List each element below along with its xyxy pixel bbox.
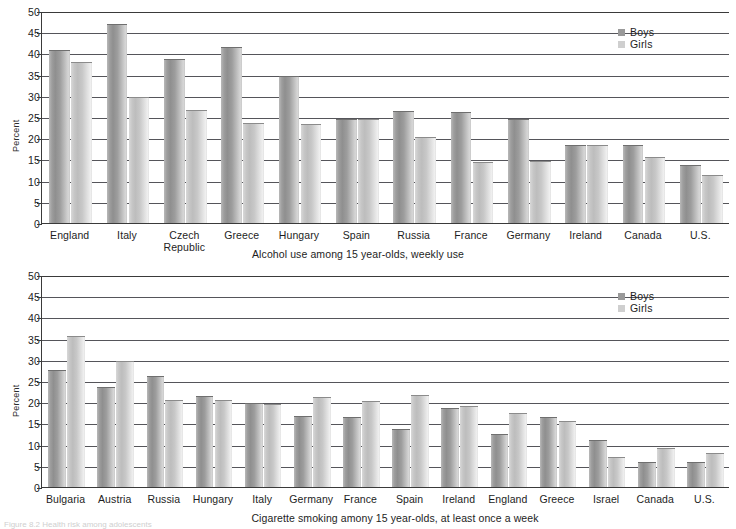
bar-face (411, 395, 429, 487)
bar-girls-ireland (460, 406, 478, 487)
bar-boys-italy (107, 24, 128, 223)
y-tick-label: 35 (0, 70, 40, 81)
bar-boys-england (49, 50, 70, 223)
y-tick-mark (37, 54, 42, 55)
y-tick-mark (37, 488, 42, 489)
gridline (42, 76, 729, 77)
bar-boys-spain (392, 429, 410, 488)
y-tick-mark (37, 118, 42, 119)
bar-face (107, 24, 128, 223)
legend-swatch-girls-icon (618, 305, 625, 312)
y-tick-mark (37, 467, 42, 468)
bar-face (362, 401, 380, 487)
bar-face (589, 440, 607, 487)
y-tick-label: 35 (0, 334, 40, 345)
x-axis-label: U.S. (668, 494, 736, 506)
bar-boys-greece (221, 47, 242, 223)
bar-face (245, 403, 263, 487)
y-tick-mark (37, 12, 42, 13)
bar-boys-canada (623, 145, 644, 223)
gridline (42, 276, 729, 277)
bar-face (71, 62, 92, 223)
y-tick-label: 30 (0, 92, 40, 103)
legend-item-girls: Girls (618, 38, 654, 50)
bar-face (657, 448, 675, 487)
bar-girls-germany (313, 397, 331, 487)
bar-boys-czech-republic (164, 59, 185, 224)
bar-face (343, 417, 361, 487)
legend-swatch-boys-icon (618, 293, 625, 300)
bar-face (294, 416, 312, 487)
y-tick-mark (37, 182, 42, 183)
bar-boys-france (343, 417, 361, 487)
y-tick-mark (37, 276, 42, 277)
gridline (42, 361, 729, 362)
bar-girls-u.s. (706, 453, 724, 487)
bar-face (264, 404, 282, 487)
bar-girls-italy (129, 97, 150, 223)
bar-boys-spain (336, 119, 357, 223)
bar-face (540, 417, 558, 487)
y-tick-label: 5 (0, 198, 40, 209)
bar-boys-germany (508, 119, 529, 223)
bar-face (67, 336, 85, 487)
bar-face (116, 361, 134, 487)
bar-face (129, 97, 150, 223)
bar-face (196, 396, 214, 487)
y-tick-mark (37, 160, 42, 161)
y-tick-label: 0 (0, 483, 40, 494)
bar-boys-austria (97, 387, 115, 487)
y-tick-label: 0 (0, 219, 40, 230)
figure-footer-note: Figure 8.2 Health risk among adolescents (4, 520, 152, 529)
bar-girls-spain (358, 119, 379, 223)
bar-girls-italy (264, 404, 282, 487)
bar-face (680, 165, 701, 223)
bar-face (221, 47, 242, 223)
bar-girls-hungary (301, 124, 322, 223)
y-tick-mark (37, 139, 42, 140)
legend-0: Boys Girls (618, 26, 654, 50)
bar-boys-russia (147, 376, 165, 488)
y-tick-mark (37, 33, 42, 34)
y-tick-label: 45 (0, 28, 40, 39)
bar-girls-spain (411, 395, 429, 487)
bar-girls-israel (608, 457, 626, 487)
bar-face (559, 421, 577, 487)
y-tick-label: 10 (0, 440, 40, 451)
y-tick-mark (37, 361, 42, 362)
gridline (42, 424, 729, 425)
bar-face (509, 413, 527, 487)
y-tick-label: 50 (0, 7, 40, 18)
y-tick-mark (37, 403, 42, 404)
bar-face (279, 76, 300, 223)
bar-boys-canada (638, 462, 656, 487)
y-tick-label: 45 (0, 292, 40, 303)
gridline (42, 467, 729, 468)
y-tick-mark (37, 203, 42, 204)
bar-face (392, 429, 410, 488)
bar-face (164, 59, 185, 224)
bar-girls-ireland (587, 145, 608, 223)
y-tick-label: 20 (0, 134, 40, 145)
bar-face (687, 462, 705, 487)
bar-girls-france (362, 401, 380, 487)
y-tick-mark (37, 224, 42, 225)
bar-girls-england (509, 413, 527, 487)
gridline (42, 54, 729, 55)
bar-face (336, 119, 357, 223)
y-tick-label: 50 (0, 271, 40, 282)
bar-girls-austria (116, 361, 134, 487)
bar-face (393, 111, 414, 223)
bar-face (358, 119, 379, 223)
bar-boys-israel (589, 440, 607, 487)
chart-caption-0: Alcohol use among 15 year-olds, weekly u… (252, 248, 464, 260)
bar-face (608, 457, 626, 487)
y-tick-label: 25 (0, 377, 40, 388)
y-tick-mark (37, 97, 42, 98)
bar-girls-greece (559, 421, 577, 487)
y-tick-mark (37, 340, 42, 341)
bar-girls-u.s. (702, 175, 723, 223)
bar-face (508, 119, 529, 223)
legend-label-boys: Boys (630, 290, 654, 302)
